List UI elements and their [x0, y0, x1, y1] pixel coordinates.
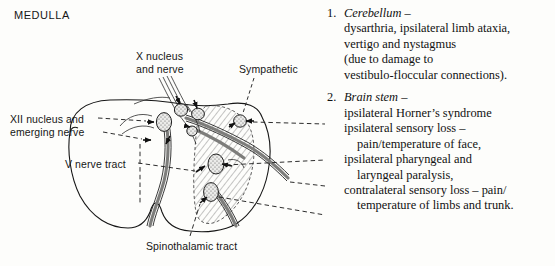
page-title: MEDULLA — [14, 9, 70, 22]
v-nerve-nucleus-oval — [208, 154, 224, 174]
leader-xii-nucleus — [98, 118, 146, 121]
xii-nucleus-oval — [156, 113, 171, 132]
pointer-sympathetic — [243, 78, 254, 113]
label-xii-nucleus-and-emerging-nerve: XII nucleus and emerging nerve — [10, 113, 84, 139]
clinical-item-dash: – — [398, 90, 407, 104]
clinical-item-line: (due to damage to — [344, 52, 553, 67]
clinical-item-heading: Cerebellum – — [344, 6, 553, 21]
clinical-item-heading-text: Brain stem — [344, 90, 398, 104]
clinical-item-heading-text: Cerebellum — [344, 6, 401, 20]
clinical-item-line: temperature of limbs and trunk. — [344, 198, 553, 213]
clinical-item-line: ipsilateral Horner’s syndrome — [344, 106, 553, 121]
leader-pharyngeal — [290, 182, 325, 186]
clinical-item-line: pain/temperature of face, — [344, 137, 553, 152]
clinical-item-number: 2. — [327, 90, 341, 105]
medulla-figure: MEDULLA X nucleus and nerve Sympathetic … — [0, 0, 555, 266]
clinical-item: 1.Cerebellum –dysarthria, ipsilateral li… — [327, 6, 553, 83]
x-nucleus-oval — [174, 104, 187, 116]
label-pointers — [243, 78, 254, 113]
leader-horner — [253, 122, 325, 124]
clinical-item-line: laryngeal paralysis, — [344, 168, 553, 183]
sympathetic-nucleus-oval — [234, 115, 247, 127]
clinical-item-line: vertigo and nystagmus — [344, 37, 553, 52]
clinical-item-line: ipsilateral sensory loss – — [344, 121, 553, 136]
solitary-nucleus-oval — [187, 126, 197, 136]
nucleus-ambiguus-oval — [192, 108, 205, 120]
clinical-item-number: 1. — [327, 6, 341, 21]
clinical-item-line: ipsilateral pharyngeal and — [344, 152, 553, 167]
clinical-item-line: vestibulo-floccular connections). — [344, 68, 553, 83]
label-spinothalamic-tract: Spinothalamic tract — [146, 240, 237, 253]
clinical-item-dash: – — [401, 6, 410, 20]
clinical-item-line: contralateral sensory loss – pain/ — [344, 183, 553, 198]
leader-emerging-nerve — [103, 132, 142, 139]
label-v-nerve-tract: V nerve tract — [65, 158, 126, 171]
clinical-item-heading: Brain stem – — [344, 90, 553, 105]
label-x-nucleus-and-nerve: X nucleus and nerve — [136, 50, 184, 76]
clinical-item-line: dysarthria, ipsilateral limb ataxia, — [344, 21, 553, 36]
clinical-findings-list: 1.Cerebellum –dysarthria, ipsilateral li… — [327, 6, 553, 214]
clinical-item: 2.Brain stem –ipsilateral Horner’s syndr… — [327, 90, 553, 214]
label-sympathetic: Sympathetic — [239, 63, 298, 76]
